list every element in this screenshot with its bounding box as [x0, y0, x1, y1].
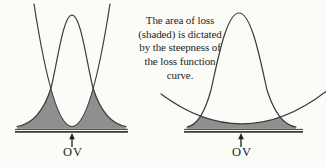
- caption-line: (shaded) is dictated: [119, 28, 241, 42]
- loss-area-figure: The area of loss (shaded) is dictated by…: [0, 0, 326, 167]
- left-probability-curve: [17, 15, 126, 127]
- left-up-arrow-icon: [69, 133, 75, 139]
- right-up-arrow-icon: [238, 133, 244, 139]
- left-shaded-loss-area: [17, 15, 126, 129]
- left-ov-label: OV: [51, 145, 95, 160]
- right-ov-label: OV: [220, 145, 264, 160]
- caption-line: The area of loss: [119, 14, 241, 28]
- left-figure: [15, 4, 128, 147]
- caption-line: curve.: [119, 69, 241, 83]
- caption: The area of loss (shaded) is dictated by…: [119, 14, 241, 83]
- right-loss-curve: [161, 92, 326, 124]
- caption-line: the loss function: [119, 55, 241, 69]
- caption-line: by the steepness of: [119, 41, 241, 55]
